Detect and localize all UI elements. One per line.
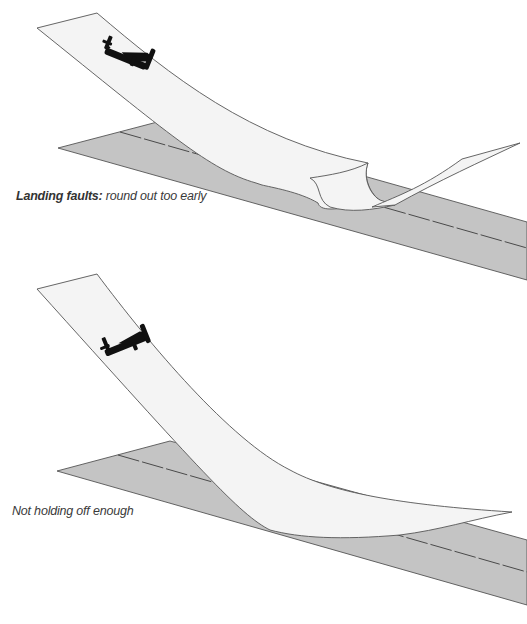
figure-not-holding-off <box>37 274 527 605</box>
caption-text: round out too early <box>103 189 207 203</box>
landing-faults-diagram <box>0 0 527 624</box>
caption-round-out-too-early: Landing faults: round out too early <box>16 189 206 203</box>
caption-lead: Landing faults: <box>16 189 103 203</box>
flight-path-balloon-1 <box>372 143 520 207</box>
caption-not-holding-off: Not holding off enough <box>12 504 133 518</box>
flight-path-ribbon-2 <box>37 274 512 538</box>
figure-round-out-too-early <box>37 13 527 280</box>
caption-text: Not holding off enough <box>12 504 133 518</box>
